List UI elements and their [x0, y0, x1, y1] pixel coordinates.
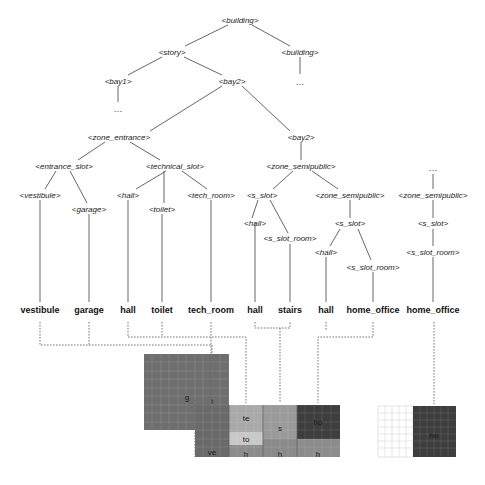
- node-zone-semipublic-c: <zone_semipublic>: [399, 191, 468, 200]
- label-hall-1: h: [244, 450, 248, 459]
- node-hall-tech: <hall>: [117, 191, 139, 200]
- node-zone-semipublic-b: <zone_semipublic>: [316, 191, 385, 200]
- node-vestibule: <vestibule>: [20, 191, 61, 200]
- node-s-slot-room-c: <s_slot_room>: [407, 248, 460, 257]
- ellipsis-bay1: …: [114, 104, 123, 114]
- node-bay1: <bay1>: [105, 77, 132, 86]
- hierarchy-diagram: <building> <story> <building> <bay1> <ba…: [0, 0, 485, 485]
- label-tech-room: te: [243, 414, 250, 423]
- leaf-toilet: toilet: [151, 305, 173, 315]
- label-stairs: s: [278, 424, 282, 433]
- floorplan-secondary: ho: [378, 406, 456, 457]
- leaf-home-office-2: home_office: [406, 305, 459, 315]
- node-toilet: <toilet>: [149, 205, 176, 214]
- leaf-home-office-1: home_office: [346, 305, 399, 315]
- tree-nodes: <building> <story> <building> <bay1> <ba…: [20, 16, 468, 272]
- tree-edges: [40, 25, 433, 302]
- label-home-office-1: ho: [314, 418, 323, 427]
- room-empty: [378, 406, 413, 457]
- leaf-vestibule: vestibule: [20, 305, 59, 315]
- node-technical-slot: <technical_slot>: [146, 162, 204, 171]
- leaf-tech-room: tech_room: [188, 305, 234, 315]
- leaf-hall-1: hall: [120, 305, 136, 315]
- node-bay2: <bay2>: [219, 77, 246, 86]
- label-hall-2: h: [278, 450, 282, 459]
- tree-leaves: vestibule garage hall toilet tech_room h…: [20, 305, 459, 315]
- node-building-root: <building>: [222, 16, 259, 25]
- ellipsis-right: …: [429, 163, 438, 173]
- node-entrance-slot: <entrance_slot>: [35, 162, 93, 171]
- node-zone-entrance: <zone_entrance>: [88, 133, 151, 142]
- label-home-office-2: ho: [430, 431, 439, 440]
- node-hall-s: <hall>: [244, 219, 266, 228]
- label-hall-3: h: [316, 450, 320, 459]
- node-bay2-child: <bay2>: [288, 133, 315, 142]
- label-toilet: to: [243, 435, 250, 444]
- leaf-hall-2: hall: [247, 305, 263, 315]
- node-story: <story>: [159, 48, 186, 57]
- node-garage: <garage>: [72, 205, 107, 214]
- node-s-slot-room-a: <s_slot_room>: [264, 234, 317, 243]
- leaf-hall-3: hall: [318, 305, 334, 315]
- leaf-garage: garage: [74, 305, 104, 315]
- node-hall-b: <hall>: [315, 248, 337, 257]
- node-building-sibling: <building>: [282, 48, 319, 57]
- label-garage: g: [185, 393, 189, 402]
- label-vestibule: ve: [208, 448, 217, 457]
- node-s-slot-b: <s_slot>: [335, 219, 366, 228]
- leaf-stairs: stairs: [278, 305, 302, 315]
- node-s-slot-a: <s_slot>: [247, 191, 278, 200]
- floorplan-main: g ve te to h s h ho h t: [144, 354, 340, 459]
- node-zone-semipublic: <zone_semipublic>: [267, 162, 336, 171]
- ellipsis-building: …: [296, 77, 305, 87]
- node-s-slot-c: <s_slot>: [418, 219, 449, 228]
- node-s-slot-room-b: <s_slot_room>: [347, 263, 400, 272]
- node-tech-room: <tech_room>: [187, 191, 234, 200]
